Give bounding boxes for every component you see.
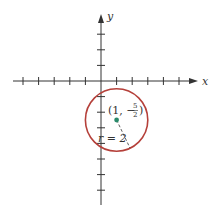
center-point <box>114 118 119 123</box>
center-label-suffix: ) <box>139 104 143 117</box>
y-axis-arrow-icon <box>98 14 104 23</box>
x-axis-label: x <box>202 75 209 88</box>
coordinate-plane: x y <box>0 0 215 214</box>
y-axis-label: y <box>106 10 114 23</box>
circle-diagram: x y <box>0 0 215 214</box>
center-label-denominator: 2 <box>133 111 137 119</box>
center-label: (1, − 5 2 ) <box>108 102 143 119</box>
x-axis-arrow-icon <box>189 78 198 84</box>
center-label-prefix: (1, − <box>108 104 136 117</box>
center-label-numerator: 5 <box>133 102 137 110</box>
radius-label: r = 2 <box>98 132 126 145</box>
